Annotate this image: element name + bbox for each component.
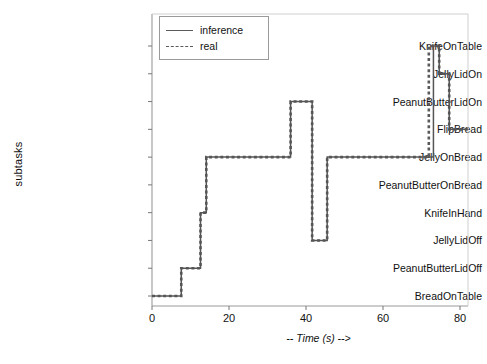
- series-line-real: [152, 46, 468, 296]
- legend-label-inference: inference: [200, 24, 243, 36]
- chart-figure: subtasks BreadOnTablePeanutButterLidOffJ…: [0, 0, 487, 364]
- legend-label-real: real: [200, 40, 218, 52]
- legend-line-dashed-icon: [166, 46, 193, 47]
- legend-line-solid-icon: [166, 30, 193, 31]
- legend-item-inference: inference: [166, 22, 262, 38]
- legend: inference real: [159, 16, 269, 60]
- x-axis-title: -- Time (s) -->: [0, 332, 487, 344]
- legend-item-real: real: [166, 38, 262, 54]
